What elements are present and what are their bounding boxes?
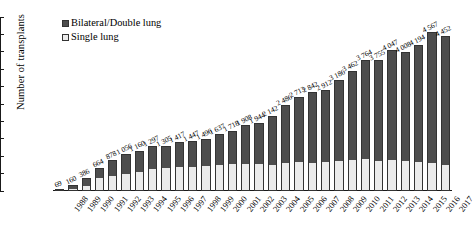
stacked-bar[interactable] — [241, 125, 250, 191]
bar-group[interactable]: 1 417 — [175, 17, 184, 191]
bar-segment-bilateral-double-lung[interactable] — [415, 46, 422, 162]
bar-segment-bilateral-double-lung[interactable] — [189, 142, 196, 167]
bar-group[interactable]: 3 764 — [361, 17, 370, 191]
bar-segment-single-lung[interactable] — [349, 160, 356, 191]
bar-segment-bilateral-double-lung[interactable] — [109, 161, 116, 175]
bar-group[interactable]: 1 637 — [215, 17, 224, 191]
bar-segment-single-lung[interactable] — [242, 164, 249, 191]
bar-segment-bilateral-double-lung[interactable] — [162, 147, 169, 169]
bar-group[interactable]: 2 912 — [321, 17, 330, 191]
bar-segment-bilateral-double-lung[interactable] — [295, 98, 302, 162]
bar-segment-single-lung[interactable] — [295, 162, 302, 191]
stacked-bar[interactable] — [188, 141, 197, 191]
stacked-bar[interactable] — [201, 139, 210, 191]
bar-segment-single-lung[interactable] — [309, 163, 316, 192]
bar-group[interactable]: 4 567 — [427, 17, 436, 191]
bar-segment-bilateral-double-lung[interactable] — [255, 124, 262, 164]
stacked-bar[interactable] — [334, 80, 343, 191]
stacked-bar[interactable] — [108, 160, 117, 191]
bar-segment-single-lung[interactable] — [415, 162, 422, 191]
bar-segment-single-lung[interactable] — [255, 164, 262, 191]
bar-segment-bilateral-double-lung[interactable] — [136, 152, 143, 172]
bar-segment-single-lung[interactable] — [282, 163, 289, 191]
bar-segment-bilateral-double-lung[interactable] — [229, 132, 236, 163]
bar-segment-bilateral-double-lung[interactable] — [149, 147, 156, 169]
stacked-bar[interactable] — [401, 52, 410, 191]
stacked-bar[interactable] — [148, 146, 157, 191]
bar-segment-single-lung[interactable] — [83, 186, 90, 191]
stacked-bar[interactable] — [254, 123, 263, 191]
stacked-bar[interactable] — [175, 142, 184, 191]
bar-group[interactable]: 1 496 — [201, 17, 210, 191]
bar-segment-single-lung[interactable] — [189, 167, 196, 191]
stacked-bar[interactable] — [121, 154, 130, 191]
bar-group[interactable]: 4 452 — [441, 17, 450, 191]
stacked-bar[interactable] — [321, 90, 330, 191]
bar-segment-bilateral-double-lung[interactable] — [428, 33, 435, 163]
bar-segment-single-lung[interactable] — [402, 161, 409, 191]
bar-segment-bilateral-double-lung[interactable] — [375, 61, 382, 160]
bar-segment-single-lung[interactable] — [335, 161, 342, 191]
stacked-bar[interactable] — [95, 168, 104, 191]
stacked-bar[interactable] — [414, 45, 423, 191]
stacked-bar[interactable] — [281, 105, 290, 192]
bar-segment-bilateral-double-lung[interactable] — [202, 140, 209, 166]
bar-segment-single-lung[interactable] — [229, 164, 236, 191]
bar-group[interactable]: 4 194 — [414, 17, 423, 191]
bar-segment-single-lung[interactable] — [136, 172, 143, 191]
bar-segment-bilateral-double-lung[interactable] — [96, 169, 103, 178]
bar-group[interactable]: 2 486 — [281, 17, 290, 191]
bar-segment-single-lung[interactable] — [96, 178, 103, 191]
bar-segment-bilateral-double-lung[interactable] — [362, 61, 369, 159]
bar-segment-bilateral-double-lung[interactable] — [335, 81, 342, 161]
stacked-bar[interactable] — [441, 36, 450, 191]
stacked-bar[interactable] — [427, 32, 436, 191]
bar-group[interactable]: 1 944 — [254, 17, 263, 191]
stacked-bar[interactable] — [387, 50, 396, 191]
bar-group[interactable]: 3 462 — [348, 17, 357, 191]
bar-segment-single-lung[interactable] — [362, 159, 369, 191]
bar-segment-single-lung[interactable] — [216, 165, 223, 191]
bar-segment-bilateral-double-lung[interactable] — [122, 155, 129, 174]
bar-group[interactable]: 1 305 — [161, 17, 170, 191]
stacked-bar[interactable] — [215, 134, 224, 191]
bar-segment-bilateral-double-lung[interactable] — [349, 72, 356, 160]
stacked-bar[interactable] — [135, 151, 144, 191]
stacked-bar[interactable] — [348, 71, 357, 191]
bar-segment-single-lung[interactable] — [122, 174, 129, 191]
stacked-bar[interactable] — [82, 178, 91, 191]
bar-segment-bilateral-double-lung[interactable] — [269, 117, 276, 164]
bar-segment-single-lung[interactable] — [375, 161, 382, 191]
stacked-bar[interactable] — [308, 92, 317, 191]
bar-segment-single-lung[interactable] — [388, 160, 395, 191]
stacked-bar[interactable] — [161, 146, 170, 191]
stacked-bar[interactable] — [294, 97, 303, 191]
stacked-bar[interactable] — [68, 185, 77, 191]
bar-segment-single-lung[interactable] — [428, 163, 435, 191]
bar-segment-single-lung[interactable] — [442, 165, 449, 191]
bar-group[interactable]: 2 713 — [294, 17, 303, 191]
bar-group[interactable]: 1 447 — [188, 17, 197, 191]
bar-segment-bilateral-double-lung[interactable] — [402, 53, 409, 161]
bar-group[interactable]: 1 718 — [228, 17, 237, 191]
bar-group[interactable]: 4 047 — [387, 17, 396, 191]
bar-segment-bilateral-double-lung[interactable] — [388, 51, 395, 160]
bar-segment-bilateral-double-lung[interactable] — [442, 37, 449, 165]
bar-segment-single-lung[interactable] — [176, 167, 183, 191]
bar-segment-bilateral-double-lung[interactable] — [216, 135, 223, 165]
stacked-bar[interactable] — [268, 116, 277, 191]
bar-segment-single-lung[interactable] — [162, 168, 169, 191]
bar-segment-single-lung[interactable] — [149, 169, 156, 191]
bar-segment-bilateral-double-lung[interactable] — [83, 179, 90, 186]
bar-group[interactable]: 1 908 — [241, 17, 250, 191]
bar-segment-bilateral-double-lung[interactable] — [242, 126, 249, 164]
bar-segment-bilateral-double-lung[interactable] — [309, 93, 316, 162]
bar-segment-bilateral-double-lung[interactable] — [322, 91, 329, 162]
bar-segment-bilateral-double-lung[interactable] — [176, 143, 183, 168]
bar-segment-single-lung[interactable] — [109, 176, 116, 192]
bar-group[interactable]: 2 842 — [308, 17, 317, 191]
bar-segment-bilateral-double-lung[interactable] — [282, 106, 289, 163]
bar-segment-single-lung[interactable] — [322, 162, 329, 191]
bar-segment-single-lung[interactable] — [69, 189, 76, 191]
bar-segment-single-lung[interactable] — [202, 166, 209, 191]
